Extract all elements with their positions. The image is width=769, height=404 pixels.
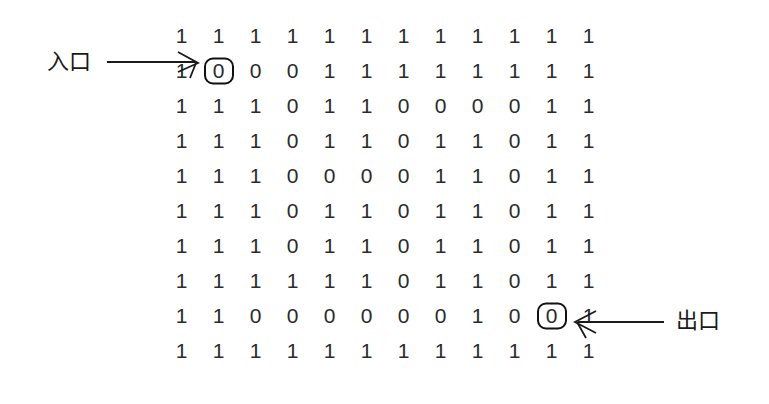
grid-cell: 1: [348, 18, 385, 53]
grid-row: 100011111111: [163, 53, 607, 88]
grid-cell: 0: [348, 298, 385, 333]
grid-cell: 1: [311, 18, 348, 53]
grid-cell: 1: [200, 298, 237, 333]
grid-cell: 0: [422, 298, 459, 333]
exit-label: 出口: [676, 310, 720, 332]
grid-cell: 1: [348, 333, 385, 368]
grid-cell: 1: [496, 18, 533, 53]
grid-cell-marked-exit: 0: [533, 298, 570, 333]
grid-cell: 1: [422, 193, 459, 228]
grid-cell: 0: [385, 298, 422, 333]
grid-cell: 1: [533, 88, 570, 123]
grid-cell: 0: [311, 298, 348, 333]
grid-cell: 0: [459, 88, 496, 123]
grid-cell: 1: [237, 88, 274, 123]
grid-cell: 1: [237, 193, 274, 228]
grid-cell: 0: [274, 228, 311, 263]
grid-cell: 1: [163, 298, 200, 333]
grid-cell: 1: [422, 333, 459, 368]
grid-cell: 1: [533, 158, 570, 193]
grid-cell: 0: [496, 298, 533, 333]
grid-cell: 1: [533, 53, 570, 88]
grid-row: 111011011011: [163, 123, 607, 158]
grid-cell: 1: [237, 263, 274, 298]
grid-cell: 1: [459, 18, 496, 53]
grid-row: 111111111111: [163, 333, 607, 368]
grid-cell: 1: [533, 228, 570, 263]
grid-cell: 1: [311, 193, 348, 228]
grid-row: 111000011011: [163, 158, 607, 193]
grid-cell: 1: [422, 158, 459, 193]
grid-cell: 1: [200, 228, 237, 263]
grid-cell: 0: [385, 88, 422, 123]
grid-cell: 1: [459, 263, 496, 298]
grid-cell: 1: [459, 123, 496, 158]
maze-matrix-diagram: 1111111111111000111111111110110000111110…: [0, 0, 769, 404]
grid-cell: 1: [348, 193, 385, 228]
grid-cell: 1: [422, 228, 459, 263]
grid-cell: 1: [570, 333, 607, 368]
grid-cell: 1: [496, 53, 533, 88]
grid-cell: 1: [163, 18, 200, 53]
grid-cell: 1: [163, 263, 200, 298]
grid-cell: 1: [422, 263, 459, 298]
grid-cell: 1: [200, 158, 237, 193]
grid-cell: 1: [533, 263, 570, 298]
grid-cell: 1: [570, 18, 607, 53]
grid-row: 111011011011: [163, 228, 607, 263]
grid-cell: 1: [200, 18, 237, 53]
grid-cell: 0: [422, 88, 459, 123]
grid-cell: 1: [163, 193, 200, 228]
grid-cell: 1: [163, 333, 200, 368]
binary-grid: 1111111111111000111111111110110000111110…: [163, 18, 607, 368]
grid-row: 111011011011: [163, 193, 607, 228]
grid-cell: 1: [348, 53, 385, 88]
grid-cell: 0: [311, 158, 348, 193]
grid-cell: 0: [385, 158, 422, 193]
grid-cell: 1: [533, 333, 570, 368]
grid-cell: 1: [237, 123, 274, 158]
grid-cell: 0: [496, 193, 533, 228]
grid-cell: 1: [237, 333, 274, 368]
grid-cell: 0: [496, 158, 533, 193]
grid-cell: 1: [385, 333, 422, 368]
grid-cell: 1: [459, 228, 496, 263]
grid-cell: 1: [459, 298, 496, 333]
grid-cell: 1: [163, 123, 200, 158]
grid-cell: 1: [311, 88, 348, 123]
grid-cell: 0: [348, 158, 385, 193]
grid-cell: 0: [385, 228, 422, 263]
grid-cell: 1: [200, 193, 237, 228]
grid-cell: 1: [237, 18, 274, 53]
grid-cell: 0: [496, 123, 533, 158]
grid-cell: 1: [570, 193, 607, 228]
grid-cell: 1: [311, 123, 348, 158]
grid-cell: 1: [459, 333, 496, 368]
grid-row: 111011000011: [163, 88, 607, 123]
grid-cell: 0: [237, 53, 274, 88]
grid-cell: 0: [274, 193, 311, 228]
grid-cell-marked-entrance: 0: [200, 53, 237, 88]
grid-cell: 1: [311, 228, 348, 263]
grid-cell: 0: [496, 88, 533, 123]
grid-cell: 1: [496, 333, 533, 368]
grid-cell: 1: [163, 158, 200, 193]
grid-cell: 0: [237, 298, 274, 333]
grid-cell: 1: [237, 158, 274, 193]
grid-cell: 0: [385, 263, 422, 298]
grid-cell: 1: [570, 53, 607, 88]
grid-cell: 1: [311, 53, 348, 88]
grid-cell: 1: [459, 53, 496, 88]
grid-cell: 1: [570, 228, 607, 263]
grid-cell: 1: [570, 298, 607, 333]
grid-cell: 1: [459, 158, 496, 193]
grid-cell: 1: [533, 18, 570, 53]
grid-cell: 0: [274, 123, 311, 158]
grid-cell: 1: [274, 18, 311, 53]
grid-cell: 1: [533, 123, 570, 158]
grid-cell: 1: [570, 88, 607, 123]
grid-cell: 1: [459, 193, 496, 228]
grid-cell: 1: [422, 18, 459, 53]
grid-cell: 1: [163, 53, 200, 88]
grid-cell: 1: [533, 193, 570, 228]
